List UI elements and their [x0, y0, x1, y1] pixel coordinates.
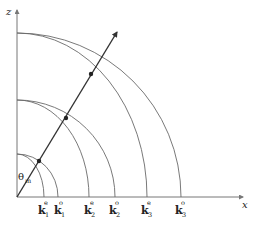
svg-text:1: 1: [45, 211, 49, 219]
k-label-k3e: k e 3: [141, 199, 152, 219]
arc-k2o: [17, 100, 115, 197]
k-label-k3o: k o 3: [175, 199, 186, 219]
svg-text:3: 3: [182, 211, 186, 219]
svg-text:3: 3: [148, 211, 152, 219]
svg-text:e: e: [44, 199, 48, 207]
svg-text:o: o: [59, 199, 63, 207]
intersection-dot-2: [64, 116, 68, 120]
svg-text:θ: θ: [18, 171, 24, 182]
svg-text:2: 2: [116, 211, 120, 219]
svg-text:m: m: [25, 177, 31, 185]
k-label-k2e: k e 2: [84, 199, 95, 219]
k-label-k2o: k o 2: [109, 199, 120, 219]
svg-text:2: 2: [91, 211, 95, 219]
z-axis-label: z: [5, 6, 12, 17]
angle-label: θ m: [18, 171, 31, 185]
svg-text:o: o: [115, 199, 119, 207]
svg-text:e: e: [90, 199, 94, 207]
k-label-k1e: k e 1: [38, 199, 49, 219]
intersection-dot-3: [89, 72, 93, 76]
direction-ray: [17, 32, 117, 197]
arc-k3o: [17, 33, 181, 197]
intersection-dot-1: [37, 159, 41, 163]
diagram-canvas: z x θ m k e 1 k o 1 k e 2 k o 2 k e 3: [0, 0, 256, 226]
svg-text:1: 1: [61, 211, 65, 219]
x-axis-label: x: [242, 199, 248, 210]
arc-k3e: [17, 33, 147, 197]
k-label-k1o: k o 1: [54, 199, 65, 219]
svg-text:o: o: [181, 199, 185, 207]
svg-text:e: e: [147, 199, 151, 207]
